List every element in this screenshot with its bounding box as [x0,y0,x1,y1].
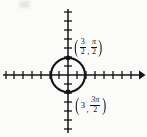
radius-value: 3 [81,101,85,110]
angle-denominator: 2 [91,48,97,57]
angle-numerator: π [91,38,97,47]
x-axis-arrowhead-right [139,71,146,80]
graph-canvas [0,0,147,137]
radius-numerator: 3 [80,38,86,47]
label-comma: , [87,47,89,56]
lower-label-body: 3 , 3π 2 [80,96,100,114]
label-open-paren: ( [75,97,79,113]
lower-point-label: ( 3 , 3π 2 ) [74,96,107,114]
radius-denominator: 2 [80,48,86,57]
lower-point-marker [66,90,71,95]
y-axis-group [64,9,72,133]
x-axis-group [3,71,146,80]
upper-label-body: 3 2 , π 2 [79,38,97,56]
label-open-paren: ( [74,39,78,55]
angle-fraction: π 2 [91,38,97,56]
angle-fraction: 3π 2 [90,96,100,114]
label-close-paren: ) [102,97,106,113]
label-comma: , [87,105,89,114]
radius-fraction: 3 2 [80,38,86,56]
label-close-paren: ) [99,39,103,55]
upper-point-marker [66,56,71,61]
upper-point-label: ( 3 2 , π 2 ) [73,38,104,56]
polar-graph-figure: ( 3 2 , π 2 ) ( 3 , 3π 2 ) [0,0,147,137]
angle-denominator: 2 [92,106,98,115]
angle-numerator: 3π [90,96,100,105]
